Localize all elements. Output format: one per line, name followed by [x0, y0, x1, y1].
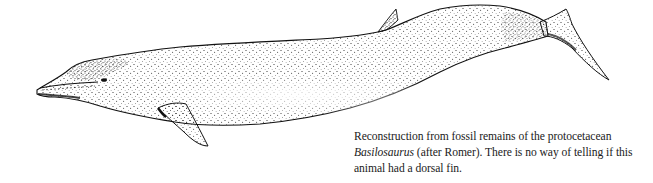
- caption-line-3: animal had a dorsal fin.: [354, 161, 653, 177]
- caption-line-2: Basilosaurus (after Romer). There is no …: [354, 145, 653, 161]
- caption-line-1: Reconstruction from fossil remains of th…: [354, 129, 653, 145]
- figure-caption: Reconstruction from fossil remains of th…: [354, 129, 653, 177]
- caption-line-2-rest: (after Romer). There is no way of tellin…: [414, 146, 632, 159]
- eye: [101, 78, 107, 82]
- caption-species-name: Basilosaurus: [354, 146, 414, 159]
- tail-fluke: [540, 9, 609, 80]
- whale-body: [37, 5, 548, 125]
